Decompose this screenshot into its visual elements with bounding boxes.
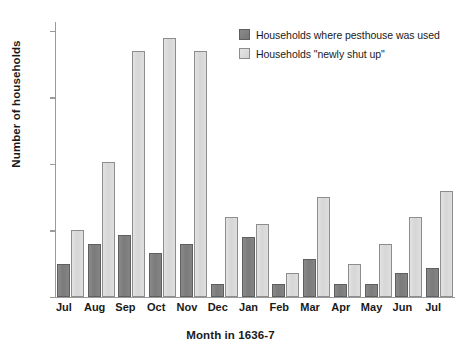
- bar-group: [88, 22, 115, 297]
- legend-label-pesthouse: Households where pesthouse was used: [256, 29, 440, 41]
- bar: [149, 253, 162, 297]
- bar: [194, 51, 207, 297]
- bar: [409, 217, 422, 297]
- bar-group: [57, 22, 84, 297]
- bar: [334, 284, 347, 297]
- bar: [88, 244, 101, 297]
- bar: [57, 264, 70, 297]
- bar-group: [149, 22, 176, 297]
- bar-group: [118, 22, 145, 297]
- bar: [102, 162, 115, 297]
- bar: [365, 284, 378, 297]
- bar: [379, 244, 392, 297]
- bar: [256, 224, 269, 297]
- bar: [272, 284, 285, 297]
- y-axis-title: Number of households: [10, 29, 26, 179]
- bar: [317, 197, 330, 297]
- bar: [132, 51, 145, 297]
- x-tick-label: Jul: [413, 301, 453, 313]
- legend-swatch-icon-newly-shut-up: [239, 48, 250, 59]
- bar-chart: Number of households 015304560 JulAugSep…: [0, 0, 461, 353]
- legend-item-newly-shut-up: Households "newly shut up": [239, 46, 454, 61]
- bar-group: [211, 22, 238, 297]
- bar: [71, 230, 84, 297]
- x-axis-line: [55, 297, 455, 298]
- x-axis-tick-labels: JulAugSepOctNovDecJanFebMarAprMayJunJul: [55, 301, 455, 319]
- bar: [286, 273, 299, 297]
- bar-group: [180, 22, 207, 297]
- x-axis-title: Month in 1636-7: [0, 329, 461, 341]
- legend-item-pesthouse: Households where pesthouse was used: [239, 27, 454, 42]
- bar: [163, 38, 176, 297]
- bar: [225, 217, 238, 297]
- bar: [211, 284, 224, 297]
- bar: [440, 191, 453, 297]
- bar: [242, 237, 255, 297]
- legend-label-newly-shut-up: Households "newly shut up": [256, 48, 385, 60]
- bar: [348, 264, 361, 297]
- y-tick-0: [50, 297, 55, 298]
- legend-swatch-icon-pesthouse: [239, 29, 250, 40]
- chart-legend: Households where pesthouse was used Hous…: [239, 27, 454, 65]
- bar: [180, 244, 193, 297]
- bar: [426, 268, 439, 297]
- bar: [303, 259, 316, 297]
- bar: [118, 235, 131, 297]
- bar: [395, 273, 408, 297]
